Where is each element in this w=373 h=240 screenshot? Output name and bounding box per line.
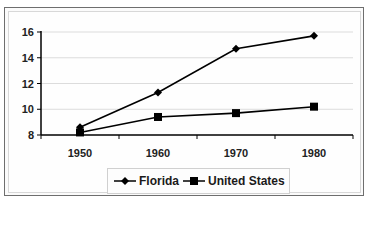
diamond-marker-icon (232, 45, 240, 53)
square-icon (183, 176, 205, 186)
series-line (80, 107, 314, 133)
square-marker-icon (232, 109, 240, 117)
legend-item-united-states: United States (183, 174, 285, 188)
x-tick-label: 1970 (224, 147, 248, 159)
y-tick-label: 8 (28, 129, 34, 141)
square-marker-icon (310, 103, 318, 111)
square-marker-icon (154, 113, 162, 121)
x-tick-label: 1980 (302, 147, 326, 159)
square-marker-icon (76, 128, 84, 136)
legend-label-florida: Florida (139, 174, 179, 188)
y-tick-label: 10 (22, 103, 34, 115)
diamond-icon (114, 176, 136, 186)
diamond-marker-icon (154, 89, 162, 97)
diamond-marker-icon (310, 32, 318, 40)
y-tick-label: 16 (22, 26, 34, 38)
legend-item-florida: Florida (114, 174, 179, 188)
x-tick-label: 1950 (68, 147, 92, 159)
series-line (80, 36, 314, 127)
x-tick-label: 1960 (146, 147, 170, 159)
y-tick-label: 14 (22, 52, 35, 64)
legend-label-united-states: United States (208, 174, 285, 188)
y-tick-label: 12 (22, 78, 34, 90)
legend: Florida United States (107, 168, 290, 194)
